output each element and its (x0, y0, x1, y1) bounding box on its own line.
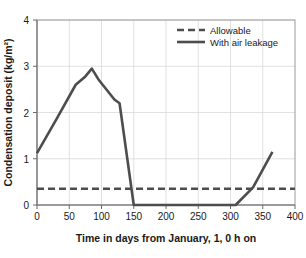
x-tick-label-400: 400 (287, 211, 304, 222)
x-tick-label-250: 250 (190, 211, 207, 222)
y-tick-label-3: 3 (23, 61, 29, 72)
x-tick-label-50: 50 (64, 211, 76, 222)
legend-label-allowable: Allowable (210, 25, 251, 36)
legend-label-with-air-leakage: With air leakage (210, 37, 278, 48)
y-tick-label-4: 4 (23, 15, 29, 26)
x-tick-label-0: 0 (34, 211, 40, 222)
x-tick-label-300: 300 (222, 211, 239, 222)
y-tick-label-2: 2 (23, 108, 29, 119)
x-tick-label-150: 150 (125, 211, 142, 222)
chart-figure: 4 3 2 1 0 0 50 100 150 200 250 300 350 4 (0, 0, 306, 258)
x-axis-title: Time in days from January, 1, 0 h on (76, 232, 257, 244)
condensation-deposit-line-chart: 4 3 2 1 0 0 50 100 150 200 250 300 350 4 (0, 0, 306, 258)
y-tick-label-0: 0 (23, 200, 29, 211)
y-axis-title: Condensation deposit (kg/m²) (2, 38, 14, 186)
x-tick-label-200: 200 (158, 211, 175, 222)
y-tick-label-1: 1 (23, 154, 29, 165)
x-tick-label-100: 100 (93, 211, 110, 222)
x-tick-label-350: 350 (254, 211, 271, 222)
